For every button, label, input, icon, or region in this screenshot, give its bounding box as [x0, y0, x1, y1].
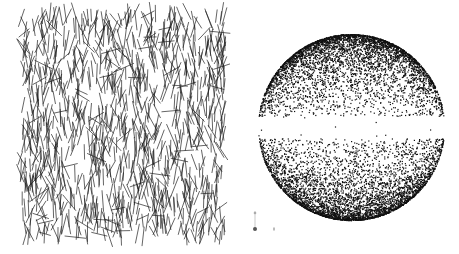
sphere-point-cloud [258, 34, 444, 221]
figure [0, 0, 459, 254]
axis-indicator-icon [253, 211, 275, 231]
line-segment-field [17, 2, 231, 247]
